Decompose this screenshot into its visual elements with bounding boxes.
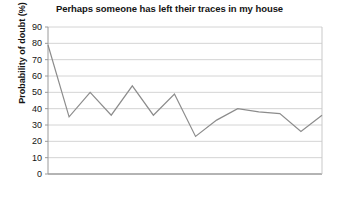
y-tick-label: 80 — [32, 38, 42, 48]
y-tick-label: 60 — [32, 71, 42, 81]
y-tick-label: 70 — [32, 55, 42, 65]
y-tick-label: 40 — [32, 104, 42, 114]
y-tick-label: 0 — [37, 169, 42, 179]
y-axis-ticks: 0102030405060708090 — [32, 22, 48, 179]
gridlines — [48, 27, 322, 174]
y-tick-label: 30 — [32, 120, 42, 130]
y-tick-label: 90 — [32, 22, 42, 32]
data-series-line — [48, 45, 322, 136]
y-tick-label: 20 — [32, 136, 42, 146]
y-tick-label: 10 — [32, 153, 42, 163]
y-tick-label: 50 — [32, 87, 42, 97]
chart-container: Perhaps someone has left their traces in… — [0, 0, 339, 201]
plot-area: 0102030405060708090 — [0, 0, 339, 201]
